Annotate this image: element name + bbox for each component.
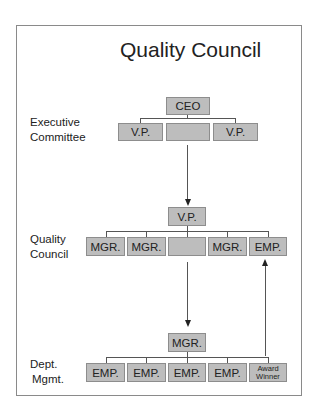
diagram-frame (16, 25, 302, 396)
level-label-line: Quality (30, 232, 68, 247)
node-emp: EMP. (249, 237, 287, 256)
node-mgr: MGR. (127, 237, 166, 256)
level-label-line: Executive (30, 115, 86, 130)
node-blank (166, 123, 210, 141)
node-award-winner: Award Winner (249, 363, 287, 382)
level-label-line: Council (30, 247, 68, 262)
node-vp: V.P. (118, 123, 163, 141)
node-emp: EMP. (208, 363, 247, 382)
arrow-down-icon (185, 320, 191, 327)
connector-line (140, 118, 235, 119)
level-label-quality-council: Quality Council (30, 232, 68, 262)
arrow-up-icon (262, 259, 268, 266)
level-label-dept-mgmt: Dept. Mgmt. (30, 357, 64, 387)
node-mgr: MGR. (86, 237, 125, 256)
level-label-line: Committee (30, 130, 86, 145)
node-emp: EMP. (86, 363, 125, 382)
node-mgr: MGR. (168, 333, 206, 352)
node-blank (168, 237, 206, 256)
arrow-down-icon (185, 199, 191, 206)
level-label-executive-committee: Executive Committee (30, 115, 86, 145)
node-vp: V.P. (213, 123, 258, 141)
node-emp: EMP. (168, 363, 206, 382)
diagram-title: Quality Council (120, 38, 270, 62)
flow-arrow-line (187, 145, 188, 200)
node-ceo: CEO (166, 97, 210, 115)
flow-arrow-line (265, 264, 266, 356)
level-label-line: Mgmt. (30, 372, 64, 387)
award-label-line: Winner (256, 373, 280, 381)
node-emp: EMP. (127, 363, 166, 382)
flow-arrow-line (187, 262, 188, 322)
node-vp: V.P. (168, 207, 206, 226)
level-label-line: Dept. (30, 357, 64, 372)
node-mgr: MGR. (208, 237, 247, 256)
